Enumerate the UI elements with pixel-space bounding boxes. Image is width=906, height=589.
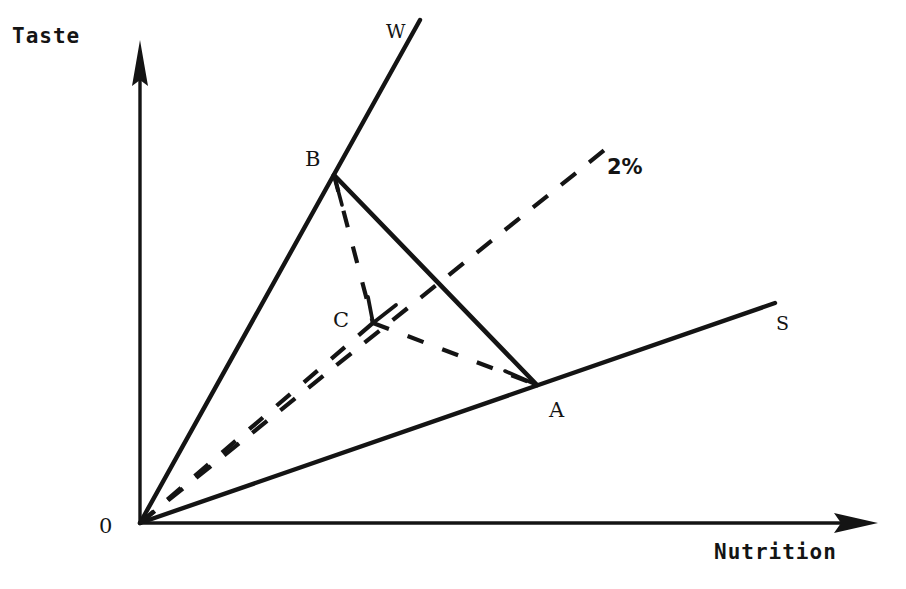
y-axis-title: Taste [12,26,80,47]
y-axis-arrowhead [132,40,148,86]
vertex-c-stub-up [368,297,373,323]
staple-ray-line [140,303,775,523]
point-b-label: B [305,149,320,170]
diagram-svg [0,0,906,589]
origin-label: 0 [99,516,112,537]
vertex-c-stub-right [373,305,396,323]
x-axis [140,513,878,533]
point-a-label: A [549,400,564,421]
two-percent-ray-label: 2% [607,157,643,178]
x-axis-title: Nutrition [714,542,837,563]
y-axis [132,40,148,523]
segment-o-c-line [140,323,373,523]
wine-ray-line [140,20,420,523]
diagram-canvas: Taste Nutrition 0 W 2% S B A C [0,0,906,589]
segment-b-a-line [334,175,537,385]
two-percent-ray-line [140,140,617,523]
wine-ray-label: W [386,22,406,41]
staple-ray-label: S [776,314,789,333]
point-c-label: C [333,310,349,331]
